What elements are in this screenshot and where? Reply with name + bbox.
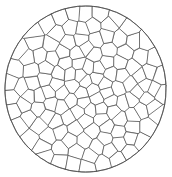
grain-cell: [140, 29, 155, 51]
grain-cells-layer: [5, 6, 166, 172]
grain-structure-figure: Polycrystalline grain structure: irregul…: [0, 0, 172, 177]
grain-cell: [147, 47, 163, 67]
voronoi-diagram: [0, 0, 172, 177]
grain-cell: [51, 155, 68, 169]
